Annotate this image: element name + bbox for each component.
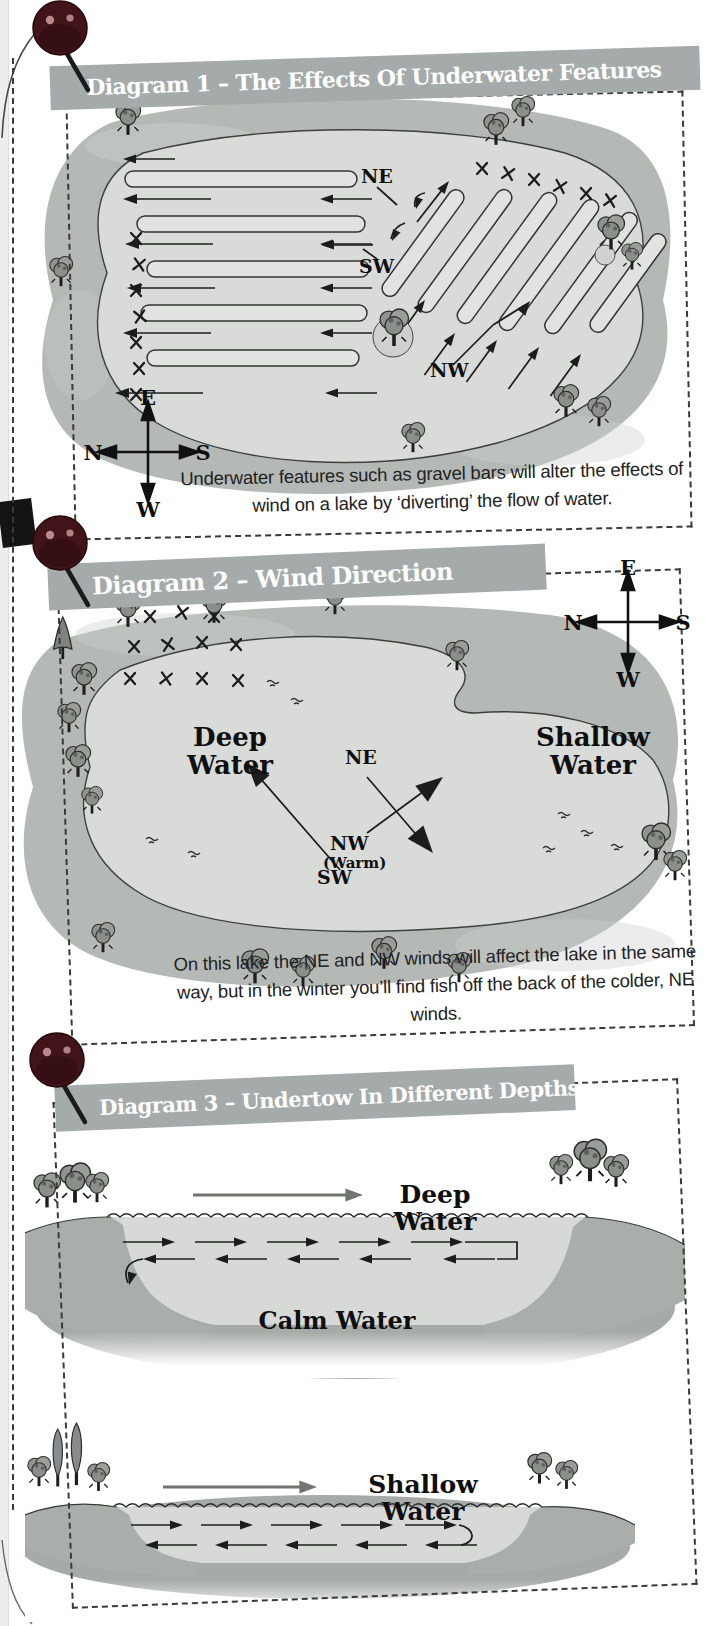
compass1-right: S (195, 440, 210, 465)
diagram3-dashed-box (52, 1078, 697, 1609)
diagram2-caption: On this lake the NE and NW winds will af… (167, 937, 704, 1034)
compass1-top: E (140, 385, 156, 410)
compass2-top: E (620, 555, 636, 580)
compass1-left: N (83, 440, 102, 465)
push-pin-icon (14, 0, 104, 100)
compass2-bottom: W (616, 667, 640, 692)
compass2-right: S (675, 610, 690, 635)
push-pin-icon (11, 1022, 101, 1132)
diagram1-caption: Underwater features such as gravel bars … (167, 454, 696, 521)
compass-rose-2: E S W N (563, 557, 693, 687)
compass1-bottom: W (136, 497, 160, 522)
diagram2-title: Diagram 2 – Wind Direction (48, 556, 454, 602)
compass2-left: N (563, 610, 582, 635)
outer-dashed-border (12, 58, 14, 1510)
push-pin-icon (14, 505, 104, 615)
